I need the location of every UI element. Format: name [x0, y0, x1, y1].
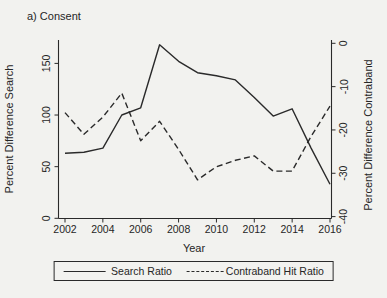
left-tick-label: 100	[41, 106, 53, 124]
legend-item-contraband-hit-ratio: Contraband Hit Ratio	[187, 265, 324, 277]
x-tick-label: 2012	[243, 223, 267, 235]
x-tick-label: 2002	[53, 223, 77, 235]
left-axis-ticks: 050100150	[40, 54, 58, 221]
x-tick-label: 2006	[129, 223, 153, 235]
right-tick-label: -20	[338, 122, 350, 137]
x-tick-label: 2008	[167, 223, 191, 235]
dashed-line-swatch	[187, 271, 224, 272]
left-tick-label: 0	[41, 215, 53, 221]
right-tick-label: 0	[338, 40, 350, 46]
x-axis-label: Year	[183, 242, 206, 254]
chart-title: a) Consent	[27, 10, 81, 22]
x-tick-label: 2004	[91, 223, 115, 235]
contraband-hit-ratio-line	[65, 93, 330, 180]
right-axis-ticks: 0-10-20-30-40	[332, 40, 350, 224]
legend-label-search-ratio: Search Ratio	[111, 265, 172, 277]
left-tick-label: 50	[41, 161, 53, 173]
legend: Search Ratio Contraband Hit Ratio	[53, 261, 334, 281]
data-series	[65, 45, 330, 184]
right-axis-label: Percent Difference Contraband	[362, 59, 374, 210]
legend-label-contraband-hit-ratio: Contraband Hit Ratio	[226, 265, 324, 277]
left-tick-label: 150	[40, 54, 52, 72]
left-axis-label: Percent Difference Search	[3, 65, 15, 194]
x-axis-ticks: 20022004200620082010201220142016	[53, 219, 342, 236]
x-tick-label: 2014	[280, 223, 304, 235]
right-tick-label: -40	[338, 209, 350, 224]
solid-line-swatch	[63, 271, 105, 272]
legend-item-search-ratio: Search Ratio	[63, 265, 172, 277]
x-tick-label: 2016	[318, 223, 342, 235]
chart-page: a) Consent 050100150 0-10-20-30-40 20022…	[0, 0, 387, 298]
right-tick-label: -30	[338, 166, 350, 181]
line-chart: a) Consent 050100150 0-10-20-30-40 20022…	[0, 0, 387, 298]
x-tick-label: 2010	[205, 223, 229, 235]
right-tick-label: -10	[338, 79, 350, 94]
